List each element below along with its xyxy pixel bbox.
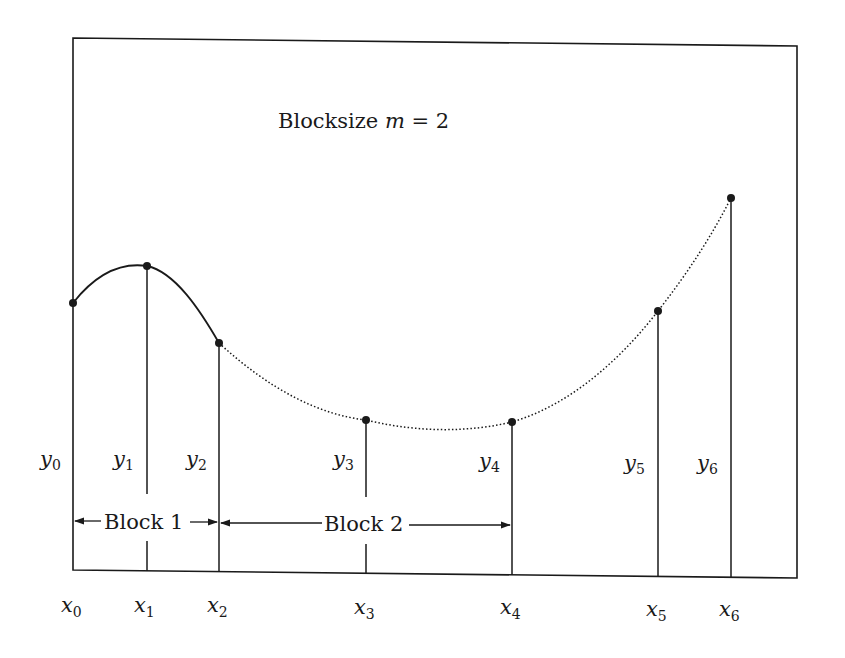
arrow-right-icon (501, 522, 511, 529)
title-rest: = 2 (405, 109, 449, 133)
x-label-1: x1 (134, 593, 155, 620)
y-label-1: y1 (112, 447, 134, 473)
y-label-2: y2 (185, 447, 207, 473)
arrow-right-icon (208, 519, 218, 526)
x-label-0: x0 (61, 593, 82, 620)
block-2-span: Block 2 (220, 512, 511, 536)
data-point-5 (654, 307, 662, 315)
data-points (69, 194, 735, 426)
title-var: m (385, 109, 405, 133)
data-point-2 (215, 339, 223, 347)
data-point-0 (69, 299, 77, 307)
data-point-1 (143, 262, 151, 270)
arrow-left-icon (220, 520, 230, 527)
x-label-2: x2 (207, 593, 228, 620)
y-label-5: y5 (623, 451, 645, 477)
x-label-3: x3 (354, 595, 375, 622)
x-label-4: x4 (500, 595, 521, 622)
data-point-4 (508, 418, 516, 426)
x-labels: x0 x1 x2 x3 x4 x5 x6 (61, 593, 740, 624)
x-label-6: x6 (719, 597, 740, 624)
block-1-span: Block 1 (74, 510, 218, 534)
ordinate-lines (147, 198, 731, 577)
block-2-label: Block 2 (324, 512, 403, 536)
block-1-label: Block 1 (104, 510, 183, 534)
y-label-4: y4 (478, 449, 500, 475)
arrow-left-icon (74, 518, 84, 525)
title-text: Blocksize (278, 109, 385, 133)
block-interpolation-diagram: Blocksize m = 2 y0 y1 y2 y3 y4 y5 y6 x0 (0, 0, 845, 658)
curve-solid-segment (73, 265, 219, 343)
y-labels: y0 y1 y2 y3 y4 y5 y6 (39, 447, 718, 477)
data-point-6 (727, 194, 735, 202)
diagram-title: Blocksize m = 2 (278, 109, 449, 133)
curve-dotted-segment (219, 198, 731, 430)
y-label-0: y0 (39, 447, 61, 473)
data-point-3 (362, 416, 370, 424)
x-label-5: x5 (646, 597, 667, 624)
y-label-6: y6 (696, 451, 718, 477)
y-label-3: y3 (332, 447, 354, 473)
